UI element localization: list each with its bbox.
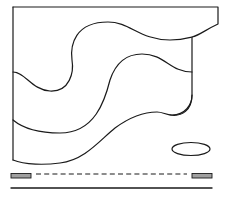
curve-middle xyxy=(13,54,192,133)
curve-bottom xyxy=(13,95,192,164)
right-gray-bar xyxy=(192,174,212,179)
region-diagram xyxy=(0,0,227,198)
curve-top xyxy=(13,22,192,91)
left-gray-bar xyxy=(11,174,31,179)
oval-shape xyxy=(172,143,210,156)
